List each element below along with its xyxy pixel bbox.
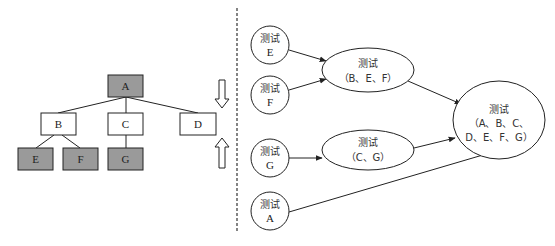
edge-tcg-tall — [414, 138, 455, 148]
ellipse-label-members: （C、G） — [346, 152, 391, 163]
ellipse-label-members: （B、E、F） — [339, 73, 398, 84]
test-ellipse-all: 测试 （A、B、C、 D、E、F、G） — [453, 81, 545, 159]
tree-node-b: B — [41, 113, 76, 135]
node-label: D — [194, 118, 202, 130]
circle-label-title: 测试 — [260, 198, 280, 210]
edge-b-e — [36, 135, 54, 148]
ellipse-label-members-2: D、E、F、G） — [465, 132, 533, 143]
circle-label-id: F — [267, 96, 273, 108]
tree-node-c: C — [108, 113, 143, 135]
node-label: A — [122, 80, 130, 92]
hollow-down-arrow-icon — [215, 80, 229, 108]
edge-b-f — [62, 135, 80, 148]
tree-node-d: D — [180, 113, 216, 135]
edge-a-b — [58, 97, 126, 113]
ellipse-label-title: 测试 — [358, 57, 378, 69]
circle-label-id: E — [267, 46, 274, 58]
circle-label-title: 测试 — [260, 32, 280, 44]
node-label: G — [122, 153, 130, 165]
test-ellipse-bef: 测试 （B、E、F） — [322, 48, 414, 92]
tree-node-a: A — [108, 75, 143, 97]
hollow-up-arrow-icon — [215, 138, 229, 168]
ellipse-label-title: 测试 — [358, 136, 378, 148]
edge-a-d — [126, 97, 198, 113]
node-label: F — [77, 153, 83, 165]
edge-te-tbef — [289, 50, 326, 61]
node-label: B — [55, 118, 62, 130]
test-circle-a: 测试 A — [251, 192, 289, 230]
testing-diagram: A B C D E F G 测试 E — [0, 0, 555, 246]
circle-label-title: 测试 — [260, 145, 280, 157]
circle-label-id: A — [266, 212, 274, 224]
node-label: E — [32, 153, 39, 165]
tree-node-g: G — [108, 148, 143, 170]
ellipse-label-members-1: （A、B、C、 — [469, 118, 530, 129]
circle-label-id: G — [266, 159, 274, 171]
tree-node-f: F — [63, 148, 98, 170]
test-circle-f: 测试 F — [251, 76, 289, 114]
node-label: C — [122, 118, 129, 130]
ellipse-label-title: 测试 — [489, 103, 509, 115]
edge-tbef-tall — [408, 81, 461, 104]
test-circle-e: 测试 E — [251, 26, 289, 64]
test-ellipse-cg: 测试 （C、G） — [322, 130, 414, 170]
test-circle-g: 测试 G — [251, 139, 289, 177]
edge-tf-tbef — [289, 79, 326, 90]
tree-node-e: E — [18, 148, 53, 170]
circle-label-title: 测试 — [260, 82, 280, 94]
